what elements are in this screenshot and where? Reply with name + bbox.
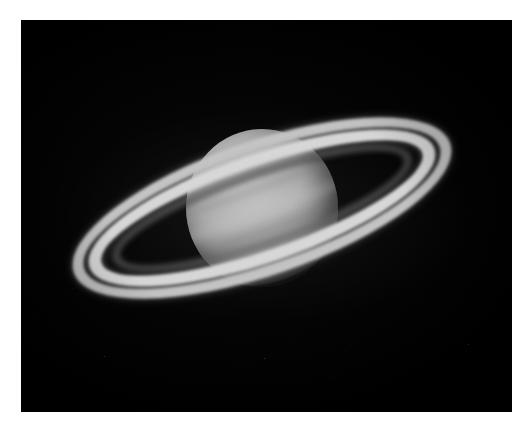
sky-plate (21, 20, 512, 412)
saturn-globe (186, 129, 338, 287)
saturn-system (21, 20, 512, 412)
saturn-cloud-bands (186, 129, 338, 287)
screenshot-root: Saturn Saturn with ring system (0, 0, 532, 434)
